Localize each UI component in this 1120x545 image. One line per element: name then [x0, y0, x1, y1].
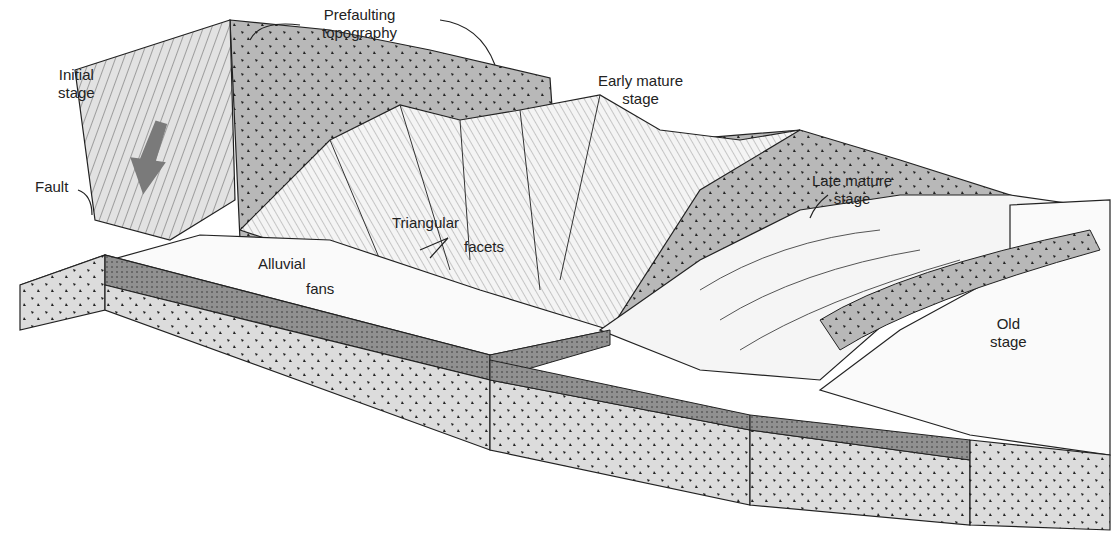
label-early-mature-stage: Early maturestage — [598, 72, 683, 108]
label-facets: facets — [464, 238, 504, 256]
label-fans: fans — [306, 280, 334, 298]
label-triangular: Triangular — [392, 214, 459, 232]
label-alluvial: Alluvial — [258, 255, 306, 273]
label-late-mature-stage: Late maturestage — [812, 172, 892, 208]
label-initial-stage: Initialstage — [58, 66, 95, 102]
label-old-stage: Oldstage — [990, 315, 1027, 351]
label-prefaulting-topography: Prefaultingtopography — [322, 6, 397, 42]
block-diagram — [0, 0, 1120, 545]
label-fault: Fault — [35, 178, 68, 196]
